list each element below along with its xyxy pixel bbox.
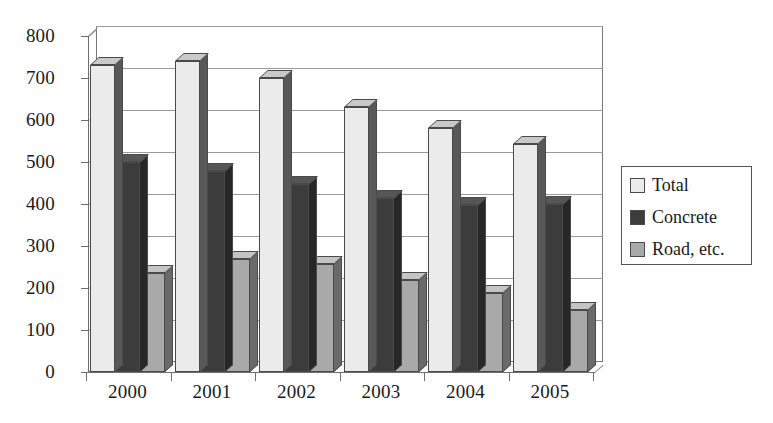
bar-2001-total	[175, 61, 200, 372]
bar-2003-total	[344, 107, 369, 372]
bar-side-face	[394, 190, 402, 372]
bar-front-face	[90, 65, 115, 372]
bar-side-face	[478, 198, 486, 372]
y-axis-line	[88, 36, 89, 373]
x-axis-label: 2003	[336, 382, 426, 401]
x-axis-label: 2000	[83, 382, 173, 401]
x-axis-tick	[255, 373, 256, 381]
y-axis-label: 800	[0, 26, 55, 45]
depth-edge-right	[595, 365, 604, 373]
bar-side-face	[538, 137, 546, 372]
bar-front-face	[259, 78, 284, 372]
y-axis-label: 200	[0, 278, 55, 297]
y-axis-label: 700	[0, 68, 55, 87]
bar-side-face	[200, 54, 208, 372]
bar-2000-total	[90, 65, 115, 372]
y-axis-label: 400	[0, 194, 55, 213]
y-axis-label: 100	[0, 320, 55, 339]
legend-label-concrete: Concrete	[652, 208, 717, 226]
legend-swatch-total-icon	[630, 178, 645, 193]
bar-chart: 0100200300400500600700800 20002001200220…	[0, 0, 773, 423]
bar-side-face	[284, 71, 292, 372]
legend-item-road: Road, etc.	[630, 237, 724, 261]
x-axis-label: 2004	[421, 382, 511, 401]
bar-side-face	[503, 286, 511, 372]
y-axis-label: 600	[0, 110, 55, 129]
chart-legend: Total Concrete Road, etc.	[621, 166, 752, 265]
bar-side-face	[225, 164, 233, 372]
x-axis-tick	[509, 373, 510, 381]
bar-side-face	[453, 120, 461, 372]
bar-front-face	[175, 61, 200, 372]
x-axis-label: 2005	[505, 382, 595, 401]
x-axis-label: 2002	[252, 382, 342, 401]
x-axis-tick	[593, 373, 594, 381]
x-axis-tick	[171, 373, 172, 381]
bar-side-face	[563, 197, 571, 372]
y-axis-label: 0	[0, 362, 55, 381]
bar-side-face	[369, 100, 377, 372]
gridline	[96, 68, 603, 69]
legend-label-road: Road, etc.	[652, 240, 724, 258]
x-axis-tick	[86, 373, 87, 381]
bar-front-face	[513, 144, 538, 372]
plot-area	[88, 36, 595, 372]
legend-swatch-concrete-icon	[630, 210, 645, 225]
x-axis-label: 2001	[167, 382, 257, 401]
bar-2004-total	[428, 128, 453, 372]
legend-swatch-road-icon	[630, 242, 645, 257]
x-axis-tick	[424, 373, 425, 381]
bar-front-face	[344, 107, 369, 372]
bar-side-face	[165, 266, 173, 372]
gridline	[96, 26, 603, 27]
y-axis-label: 300	[0, 236, 55, 255]
bar-side-face	[419, 273, 427, 372]
bar-side-face	[140, 155, 148, 372]
bar-front-face	[428, 128, 453, 372]
legend-label-total: Total	[652, 176, 689, 194]
y-axis-label: 500	[0, 152, 55, 171]
x-axis-tick	[340, 373, 341, 381]
bar-2005-total	[513, 144, 538, 372]
bar-side-face	[588, 303, 596, 372]
legend-item-concrete: Concrete	[630, 205, 717, 229]
bar-side-face	[250, 251, 258, 372]
bar-2002-total	[259, 78, 284, 372]
legend-item-total: Total	[630, 173, 689, 197]
bar-side-face	[309, 177, 317, 372]
bar-side-face	[115, 58, 123, 372]
bar-side-face	[334, 256, 342, 372]
